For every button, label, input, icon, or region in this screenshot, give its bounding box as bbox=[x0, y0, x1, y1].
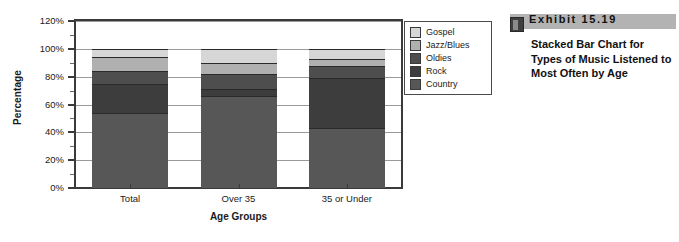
bar-segment-rock[interactable] bbox=[201, 89, 277, 96]
legend-swatch-icon bbox=[410, 66, 421, 77]
legend-item-label: Oldies bbox=[426, 53, 452, 64]
legend-item-label: Rock bbox=[426, 66, 447, 77]
legend-swatch-icon bbox=[410, 40, 421, 51]
y-axis-tick-label: 20% bbox=[22, 154, 64, 165]
bar-segment-jazz-blues[interactable] bbox=[92, 57, 168, 71]
bar-segment-oldies[interactable] bbox=[309, 66, 385, 79]
bar-segment-oldies[interactable] bbox=[92, 71, 168, 84]
bar-segment-oldies[interactable] bbox=[201, 74, 277, 89]
bar-segment-country[interactable] bbox=[309, 128, 385, 188]
legend-item-label: Gospel bbox=[426, 27, 455, 38]
x-axis-tick bbox=[239, 184, 240, 188]
y-axis-tick-label: 60% bbox=[22, 99, 64, 110]
legend-item-label: Country bbox=[426, 79, 458, 90]
bar-segment-rock[interactable] bbox=[92, 84, 168, 113]
bar-segment-gospel[interactable] bbox=[92, 49, 168, 57]
legend-item-label: Jazz/Blues bbox=[426, 40, 470, 51]
legend-swatch-icon bbox=[410, 53, 421, 64]
x-axis-category-label: 35 or Under bbox=[297, 193, 397, 204]
bar-segment-gospel[interactable] bbox=[201, 49, 277, 63]
legend-item[interactable]: Oldies bbox=[410, 52, 487, 64]
x-axis-title: Age Groups bbox=[74, 211, 403, 222]
bar-stack[interactable] bbox=[309, 21, 385, 188]
legend-swatch-icon bbox=[410, 27, 421, 38]
exhibit-caption: Exhibit 15.19 Stacked Bar Chart for Type… bbox=[505, 0, 679, 242]
y-axis-tick-label: 40% bbox=[22, 126, 64, 137]
bar-segment-country[interactable] bbox=[201, 96, 277, 188]
legend-item[interactable]: Gospel bbox=[410, 26, 487, 38]
chart-legend: GospelJazz/BluesOldiesRockCountry bbox=[404, 21, 492, 95]
exhibit-description: Stacked Bar Chart for Types of Music Lis… bbox=[531, 37, 677, 81]
x-axis-category-label: Over 35 bbox=[189, 193, 289, 204]
bar-segment-gospel[interactable] bbox=[309, 49, 385, 59]
x-axis-category-label: Total bbox=[80, 193, 180, 204]
legend-item[interactable]: Rock bbox=[410, 65, 487, 77]
y-axis-tick-label: 120% bbox=[22, 15, 64, 26]
bar-segment-country[interactable] bbox=[92, 113, 168, 188]
y-axis-tick-label: 80% bbox=[22, 71, 64, 82]
legend-swatch-icon bbox=[410, 79, 421, 90]
x-axis-tick bbox=[130, 184, 131, 188]
bar-stack[interactable] bbox=[92, 21, 168, 188]
bar-stack[interactable] bbox=[201, 21, 277, 188]
bar-segment-jazz-blues[interactable] bbox=[201, 63, 277, 74]
legend-item[interactable]: Country bbox=[410, 78, 487, 90]
y-axis-title: Percentage bbox=[12, 43, 23, 153]
bar-segment-rock[interactable] bbox=[309, 78, 385, 128]
exhibit-figure: Percentage 0%20%40%60%80%100%120% TotalO… bbox=[0, 0, 679, 242]
plot-area bbox=[76, 21, 401, 188]
bar-segment-jazz-blues[interactable] bbox=[309, 59, 385, 66]
legend-item[interactable]: Jazz/Blues bbox=[410, 39, 487, 51]
caption-marker-highlight bbox=[513, 20, 518, 30]
exhibit-number-label: Exhibit 15.19 bbox=[529, 13, 617, 25]
stacked-bar-chart: Percentage 0%20%40%60%80%100%120% TotalO… bbox=[0, 0, 500, 242]
caption-marker-icon bbox=[510, 17, 524, 32]
y-axis-tick-label: 100% bbox=[22, 43, 64, 54]
y-axis-tick-label: 0% bbox=[22, 182, 64, 193]
x-axis-tick bbox=[347, 184, 348, 188]
